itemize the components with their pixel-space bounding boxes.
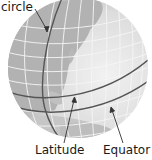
equator-label: Equator [103, 144, 150, 156]
latitude-label: Latitude [35, 144, 84, 156]
circle-label: circle [1, 1, 33, 13]
globe-illustration [0, 0, 152, 160]
